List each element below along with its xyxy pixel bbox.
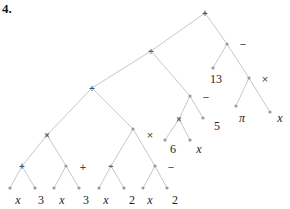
tree-edge [92,51,151,88]
operand-label: 2 [129,193,135,207]
tree-node [268,110,271,113]
operand-label: x [102,193,109,207]
node-operator: ÷ [148,46,154,57]
operand-label: x [14,193,21,207]
tree-node [141,186,144,189]
operand-label: 5 [214,119,220,133]
tree-edge [54,166,66,188]
operand-label: x [276,111,283,125]
tree-edges [10,13,270,188]
tree-edge [47,88,92,135]
operand-label: 13 [210,72,222,86]
operator-label: + [80,161,86,173]
tree-node [225,42,228,45]
operand-label: x [195,142,202,156]
tree-node [33,186,36,189]
operand-label: π [239,111,246,125]
tree-node [153,164,156,167]
tree-edge [111,129,133,166]
tree-node [122,186,125,189]
tree-edge [92,88,133,129]
tree-node [211,66,214,69]
tree-node [64,164,67,167]
tree-edge [66,166,79,188]
tree-edge [213,44,227,68]
tree-node [165,186,168,189]
node-operator: + [19,161,25,172]
operator-label: × [262,73,268,85]
tree-node [163,138,166,141]
node-operator: × [176,114,182,125]
tree-edge [151,13,205,51]
operator-label: − [168,161,174,173]
operator-label: − [203,91,209,103]
node-operator: × [44,130,50,141]
operand-label: 3 [83,193,89,207]
tree-edge [236,78,249,106]
operator-label: × [147,129,153,141]
tree-edge [151,51,190,96]
operand-label: 6 [170,142,176,156]
operand-label: x [58,193,65,207]
operand-label: 3 [38,193,44,207]
tree-edge [143,166,155,188]
tree-labels: −13×πx−5×6x+−x3x3x2x2 [14,38,283,207]
tree-node [97,186,100,189]
operand-label: 2 [172,193,178,207]
operator-label: − [240,38,246,50]
tree-node [188,94,191,97]
tree-node [201,116,204,119]
tree-edge [205,13,227,44]
tree-node [247,76,250,79]
tree-edge [155,166,167,188]
node-operator: ÷ [89,83,95,94]
tree-edge [190,96,203,118]
tree-node [77,186,80,189]
expression-tree: +÷÷××+− −13×πx−5×6x+−x3x3x2x2 [0,0,290,209]
tree-node [8,186,11,189]
tree-node [234,104,237,107]
operand-label: x [146,193,153,207]
tree-node [188,138,191,141]
tree-nodes: +÷÷××+− [8,8,271,190]
tree-node [52,186,55,189]
tree-node [131,127,134,130]
node-operator: − [108,161,114,172]
node-operator: + [202,8,208,19]
